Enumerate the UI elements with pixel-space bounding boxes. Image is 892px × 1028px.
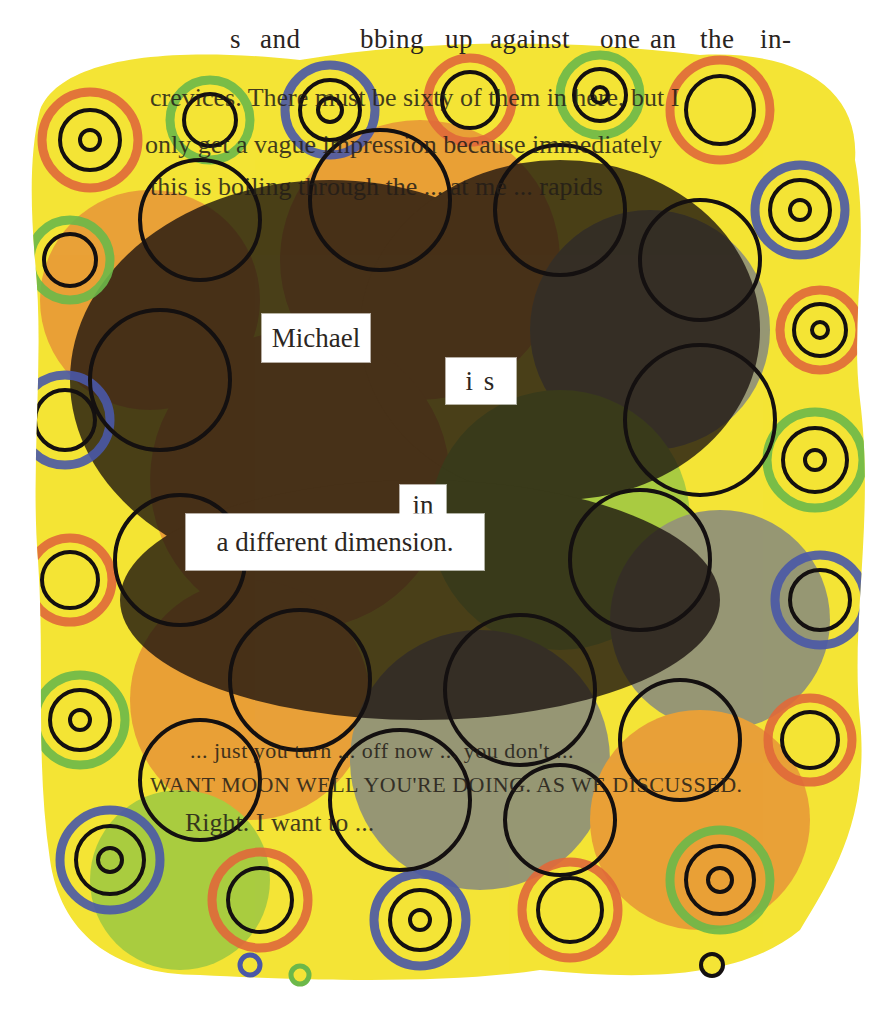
top-fragment: and [260, 24, 300, 55]
top-fragment: one [600, 24, 640, 55]
top-fragment: in- [760, 24, 792, 55]
poem-phrase-a-different-dimension: a different dimension. [186, 514, 484, 570]
obscured-line: WANT MOON WELL YOU'RE DOING. AS WE DISCU… [150, 772, 743, 798]
obscured-line: this is boiling through the ... at me ..… [150, 172, 603, 202]
obscured-line: crevices. There must be sixty of them in… [150, 83, 679, 113]
top-fragment: bbing [360, 24, 424, 55]
blackout-poetry-artwork: s and bbing up against one an the in- cr… [0, 0, 892, 1028]
poem-word-is: i s [446, 358, 516, 404]
top-fragment: the [700, 24, 735, 55]
obscured-line: Right. I want to ... [185, 808, 374, 838]
obscured-line: only get a vague impression because imme… [145, 130, 662, 160]
top-fragment: s [230, 24, 241, 55]
top-fragment: up [445, 24, 473, 55]
poem-word-michael: Michael [262, 314, 370, 362]
top-fragment: an [650, 24, 676, 55]
obscured-line: ... just you turn ... off now ... you do… [190, 738, 574, 764]
top-fragment: against [490, 24, 570, 55]
